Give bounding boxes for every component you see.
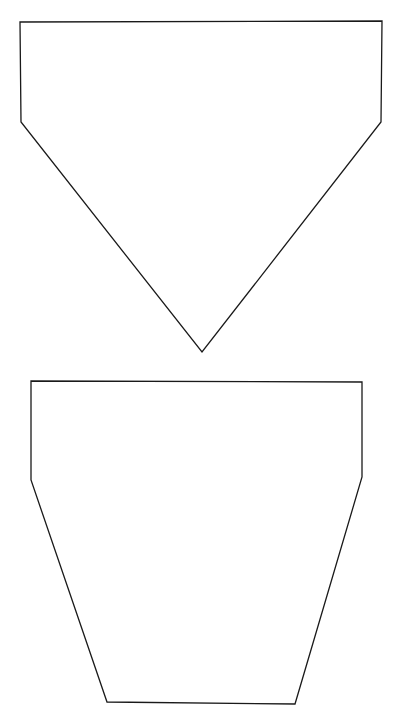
diagram-canvas: [0, 0, 395, 720]
pot-shape: [31, 381, 362, 704]
pentagon-shape: [20, 21, 382, 352]
